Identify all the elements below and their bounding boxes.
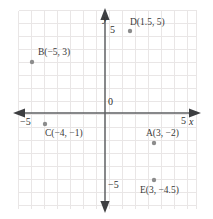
x-axis-label: x	[189, 117, 193, 127]
y-axis-label: y	[103, 14, 107, 24]
origin-label: 0	[108, 97, 113, 107]
coordinate-grid-svg	[0, 0, 213, 219]
x-tick-label-5: 5	[181, 116, 186, 126]
point-label-D: D(1.5, 5)	[130, 18, 165, 28]
y-tick-label-5: 5	[110, 25, 115, 35]
point-label-C: C(−4, −1)	[45, 129, 83, 139]
point-marker-A	[152, 141, 156, 145]
point-marker-C	[43, 122, 47, 126]
x-tick-label-neg5: −5	[20, 117, 31, 127]
axis-arrowheads	[13, 8, 201, 213]
y-axis-down-arrow	[100, 201, 109, 213]
coordinate-plane-figure: y x 0 5 −5 −5 5 D(1.5, 5) B(−5, 3) C(−4,…	[0, 0, 213, 219]
point-marker-D	[128, 29, 132, 33]
point-label-E: E(3, −4.5)	[140, 186, 179, 196]
point-marker-B	[30, 60, 34, 64]
point-label-B: B(−5, 3)	[38, 48, 70, 58]
point-label-A: A(3, −2)	[146, 129, 179, 139]
point-marker-E	[152, 178, 156, 182]
y-tick-label-neg5: −5	[108, 180, 119, 190]
